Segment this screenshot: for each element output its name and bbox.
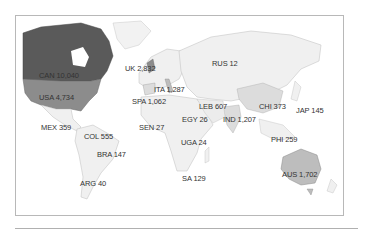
label-sa: SA 129 <box>182 174 206 183</box>
label-leb: LEB 607 <box>199 102 227 111</box>
label-can: CAN 10,040 <box>39 71 79 80</box>
label-egy: EGY 26 <box>182 115 208 124</box>
label-ita: ITA 1,287 <box>154 85 185 94</box>
label-col: COL 555 <box>84 132 113 141</box>
label-uk: UK 2,832 <box>125 64 155 73</box>
label-chi: CHI 373 <box>259 102 286 111</box>
label-usa: USA 4,734 <box>39 93 74 102</box>
world-map <box>16 16 343 215</box>
map-frame: CAN 10,040 USA 4,734 MEX 359 COL 555 BRA… <box>15 15 344 216</box>
label-rus: RUS 12 <box>212 59 238 68</box>
region-australia <box>281 149 321 185</box>
label-aus: AUS 1,702 <box>282 170 317 179</box>
label-uga: UGA 24 <box>181 138 207 147</box>
label-spa: SPA 1,062 <box>132 97 166 106</box>
label-arg: ARG 40 <box>80 179 106 188</box>
label-jap: JAP 145 <box>296 106 324 115</box>
label-phi: PHI 259 <box>271 135 297 144</box>
divider-rule <box>15 228 358 229</box>
label-mex: MEX 359 <box>41 123 71 132</box>
label-bra: BRA 147 <box>97 150 126 159</box>
label-sen: SEN 27 <box>139 123 164 132</box>
label-ind: IND 1,207 <box>223 115 256 124</box>
